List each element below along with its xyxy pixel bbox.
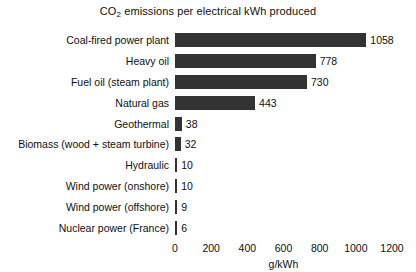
bar-value-label: 730 bbox=[311, 76, 329, 88]
bar bbox=[175, 158, 177, 172]
bar-chart: CO2 emissions per electrical kWh produce… bbox=[0, 0, 416, 272]
bar-row: Natural gas443 bbox=[0, 92, 416, 113]
x-axis-tick-label: 1000 bbox=[344, 242, 367, 254]
bar-value-label: 778 bbox=[320, 55, 338, 67]
x-axis-title: g/kWh bbox=[175, 258, 392, 270]
bar-row: Coal-fired power plant1058 bbox=[0, 30, 416, 51]
category-label: Nuclear power (France) bbox=[0, 222, 169, 234]
bar bbox=[175, 54, 316, 68]
bar bbox=[175, 221, 177, 235]
category-label: Biomass (wood + steam turbine) bbox=[0, 138, 169, 150]
bar-row: Geothermal38 bbox=[0, 113, 416, 134]
bar bbox=[175, 117, 182, 131]
bar-row: Fuel oil (steam plant)730 bbox=[0, 72, 416, 93]
plot-area: Coal-fired power plant1058Heavy oil778Fu… bbox=[0, 30, 416, 235]
bar-value-label: 9 bbox=[181, 201, 187, 213]
bar bbox=[175, 75, 307, 89]
bar-value-label: 1058 bbox=[370, 34, 393, 46]
category-label: Wind power (offshore) bbox=[0, 201, 169, 213]
category-label: Coal-fired power plant bbox=[0, 34, 169, 46]
category-label: Heavy oil bbox=[0, 55, 169, 67]
bar-row: Biomass (wood + steam turbine)32 bbox=[0, 134, 416, 155]
bar-row: Wind power (offshore)9 bbox=[0, 196, 416, 217]
bar-value-label: 10 bbox=[181, 180, 193, 192]
bar bbox=[175, 137, 181, 151]
bar-value-label: 6 bbox=[181, 222, 187, 234]
bar bbox=[175, 200, 177, 214]
bar-value-label: 10 bbox=[181, 159, 193, 171]
x-axis-tick-label: 800 bbox=[311, 242, 329, 254]
chart-title: CO2 emissions per electrical kWh produce… bbox=[0, 5, 416, 19]
chart-title-prefix: CO bbox=[100, 5, 117, 17]
bar bbox=[175, 96, 255, 110]
bar-row: Nuclear power (France)6 bbox=[0, 217, 416, 238]
category-label: Wind power (onshore) bbox=[0, 180, 169, 192]
category-label: Natural gas bbox=[0, 97, 169, 109]
bar-value-label: 443 bbox=[259, 97, 277, 109]
x-axis: g/kWh 020040060080010001200 bbox=[0, 236, 416, 272]
bar-row: Hydraulic10 bbox=[0, 155, 416, 176]
category-label: Fuel oil (steam plant) bbox=[0, 76, 169, 88]
bar-value-label: 38 bbox=[186, 118, 198, 130]
chart-title-suffix: emissions per electrical kWh produced bbox=[121, 5, 316, 17]
x-axis-tick-label: 1200 bbox=[380, 242, 403, 254]
x-axis-tick-label: 400 bbox=[239, 242, 257, 254]
bar bbox=[175, 33, 366, 47]
x-axis-tick-label: 0 bbox=[172, 242, 178, 254]
category-label: Geothermal bbox=[0, 118, 169, 130]
bar bbox=[175, 179, 177, 193]
bar-row: Heavy oil778 bbox=[0, 51, 416, 72]
chart-title-subscript: 2 bbox=[116, 10, 121, 19]
x-axis-tick-label: 200 bbox=[202, 242, 220, 254]
bar-value-label: 32 bbox=[185, 138, 197, 150]
x-axis-tick-label: 600 bbox=[275, 242, 293, 254]
bar-row: Wind power (onshore)10 bbox=[0, 176, 416, 197]
category-label: Hydraulic bbox=[0, 159, 169, 171]
